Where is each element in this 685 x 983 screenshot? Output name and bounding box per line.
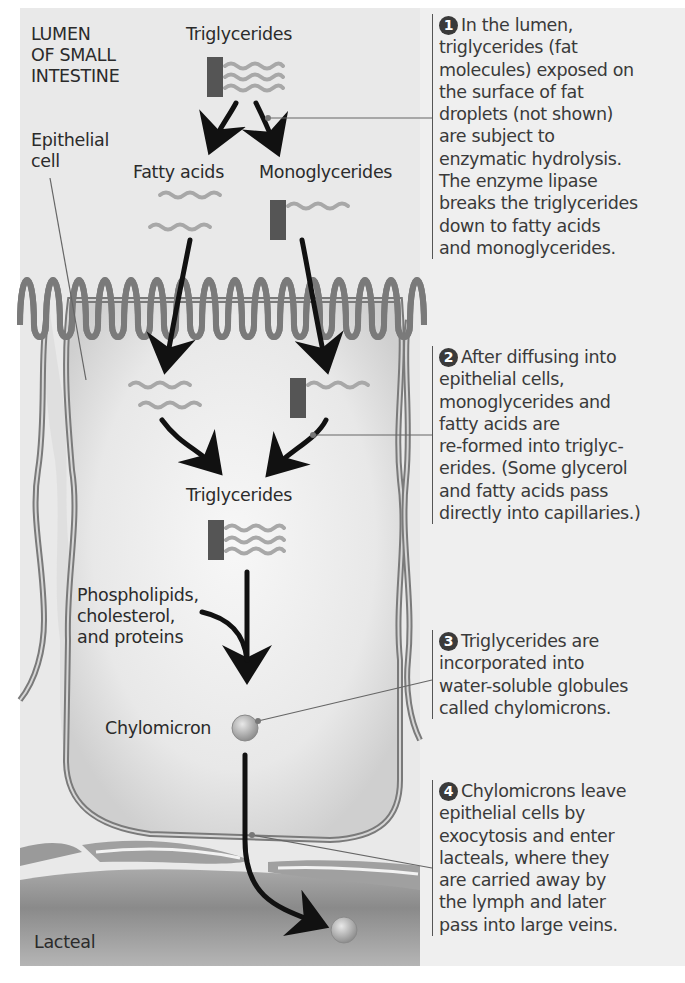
label-epithelial-line: Epithelial [31, 130, 109, 151]
step-text: monoglycerides and [439, 391, 641, 413]
step-text: epithelial cells by [439, 802, 626, 824]
label-phospholipids: Phospholipids, cholesterol, and proteins [77, 585, 199, 648]
step-1-description: 1In the lumen, triglycerides (fat molecu… [432, 14, 638, 259]
step-text: epithelial cells, [439, 368, 641, 390]
step-2-description: 2After diffusing into epithelial cells, … [432, 346, 641, 524]
step-text: fatty acids are [439, 413, 641, 435]
step-4-description: 4Chylomicrons leave epithelial cells by … [432, 780, 626, 936]
label-chylomicron: Chylomicron [105, 718, 211, 739]
step-text: triglycerides (fat [439, 36, 638, 58]
step-text: Chylomicrons leave [461, 781, 626, 801]
step-3-line: 3Triglycerides are [439, 630, 628, 652]
step-text: breaks the triglycerides [439, 192, 638, 214]
step-text: droplets (not shown) [439, 103, 638, 125]
step-text: After diffusing into [461, 347, 616, 367]
label-triglycerides-top: Triglycerides [186, 24, 292, 45]
label-epithelial-cell: Epithelial cell [31, 130, 109, 172]
step-text: directly into capillaries.) [439, 502, 641, 524]
label-lumen: LUMEN OF SMALL INTESTINE [31, 24, 119, 87]
step-3-description: 3Triglycerides are incorporated into wat… [432, 630, 628, 719]
step-text: exocytosis and enter [439, 825, 626, 847]
step-text: molecules) exposed on [439, 59, 638, 81]
step-text: re-formed into triglyc- [439, 435, 641, 457]
step-text: the surface of fat [439, 81, 638, 103]
chylomicron-in-lacteal [331, 917, 357, 943]
step-number-badge: 1 [439, 16, 458, 35]
label-fatty-acids: Fatty acids [133, 162, 224, 183]
step-text: In the lumen, [461, 15, 573, 35]
label-phospholipids-line: and proteins [77, 627, 199, 648]
step-number-badge: 4 [439, 782, 458, 801]
step-2-line: 2After diffusing into [439, 346, 641, 368]
step-text: and fatty acids pass [439, 480, 641, 502]
label-epithelial-line: cell [31, 151, 109, 172]
step-text: pass into large veins. [439, 914, 626, 936]
label-lacteal: Lacteal [34, 932, 95, 953]
step-number-badge: 3 [439, 632, 458, 651]
label-phospholipids-line: cholesterol, [77, 606, 199, 627]
label-lumen-line: LUMEN [31, 24, 119, 45]
step-text: called chylomicrons. [439, 697, 628, 719]
epithelial-cell-outline [66, 300, 403, 840]
label-lumen-line: OF SMALL [31, 45, 119, 66]
step-text: water-soluble globules [439, 675, 628, 697]
step-text: are carried away by [439, 869, 626, 891]
step-text: erides. (Some glycerol [439, 457, 641, 479]
chylomicron-globule [232, 715, 258, 741]
step-text: lacteals, where they [439, 847, 626, 869]
lipid-absorption-diagram: LUMEN OF SMALL INTESTINE Epithelial cell… [0, 0, 685, 983]
step-4-line: 4Chylomicrons leave [439, 780, 626, 802]
label-phospholipids-line: Phospholipids, [77, 585, 199, 606]
label-lumen-line: INTESTINE [31, 66, 119, 87]
label-triglycerides-mid: Triglycerides [186, 485, 292, 506]
step-text: and monoglycerides. [439, 237, 638, 259]
label-monoglycerides: Monoglycerides [259, 162, 392, 183]
step-1-line: 1In the lumen, [439, 14, 638, 36]
step-text: the lymph and later [439, 891, 626, 913]
step-text: down to fatty acids [439, 215, 638, 237]
step-number-badge: 2 [439, 348, 458, 367]
step-text: incorporated into [439, 652, 628, 674]
step-text: are subject to [439, 125, 638, 147]
step-text: Triglycerides are [461, 631, 599, 651]
step-text: The enzyme lipase [439, 170, 638, 192]
step-text: enzymatic hydrolysis. [439, 148, 638, 170]
